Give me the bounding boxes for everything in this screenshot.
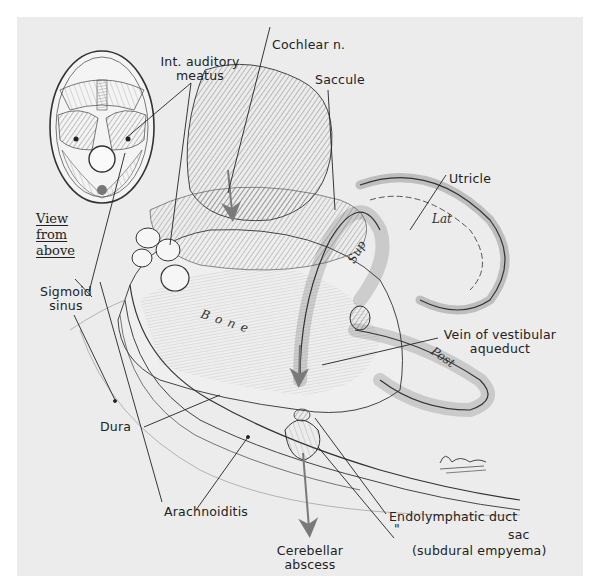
label-sigmoid-sinus-line-2: sinus	[28, 299, 104, 313]
label-subdural-empyema: (subdural empyema)	[412, 544, 547, 558]
inset-caption-line-2: from	[36, 227, 75, 243]
label-int-auditory-meatus-line-2: meatus	[150, 69, 250, 83]
label-endolymphatic-sac: sac	[508, 528, 530, 542]
label-cerebellar-abscess: Cerebellar abscess	[270, 544, 350, 572]
label-utricle: Utricle	[449, 172, 491, 186]
label-cerebellar-line-2: abscess	[270, 558, 350, 572]
signature-mark	[440, 456, 486, 473]
label-vein-vestibular-aqueduct: Vein of vestibular aqueduct	[430, 328, 570, 356]
label-sigmoid-sinus-line-1: Sigmoid	[28, 285, 104, 299]
inset-caption: View from above	[36, 211, 75, 259]
label-endolymphatic-ditto: "	[394, 522, 400, 536]
label-int-auditory-meatus: Int. auditory meatus	[150, 55, 250, 83]
label-lateral-canal: Lat	[432, 212, 452, 226]
label-cochlear-nerve: Cochlear n.	[272, 38, 345, 52]
nerve-bundle	[132, 64, 367, 291]
inset-caption-line-3: above	[36, 243, 75, 259]
label-arachnoiditis: Arachnoiditis	[164, 505, 248, 519]
inset-caption-line-1: View	[36, 211, 75, 227]
label-endolymphatic-duct: Endolymphatic duct	[389, 510, 517, 524]
label-vein-line-1: Vein of vestibular	[430, 328, 570, 342]
label-sigmoid-sinus: Sigmoid sinus	[28, 285, 104, 313]
label-saccule: Saccule	[315, 73, 365, 87]
label-vein-line-2: aqueduct	[430, 342, 570, 356]
label-int-auditory-meatus-line-1: Int. auditory	[150, 55, 250, 69]
label-dura: Dura	[100, 420, 131, 434]
label-cerebellar-line-1: Cerebellar	[270, 544, 350, 558]
